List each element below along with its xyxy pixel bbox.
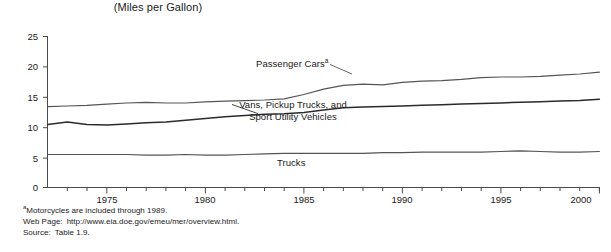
series-label-vans-line-2: Sport Utility Vehicles	[249, 111, 337, 122]
x-tick-label-2000: 2000	[563, 194, 599, 205]
y-tick-marks	[43, 37, 48, 188]
chart-figure: (Miles per Gallon)	[0, 0, 611, 252]
y-tick-label-0: 0	[16, 182, 38, 193]
x-tick-label-1995: 1995	[483, 194, 519, 205]
series-label-vans-line-1: Vans, Pickup Trucks, and	[239, 99, 347, 110]
footnotes-block: aMotorcycles are included through 1989. …	[23, 205, 239, 239]
footnote-web-page: Web Page:http://www.eia.doe.gov/emeu/mer…	[23, 216, 239, 227]
series-label-passenger-cars-footnote-marker: a	[325, 57, 329, 64]
footnote-web-page-label: Web Page:	[23, 217, 63, 226]
series-label-vans-pickups-suv: Vans, Pickup Trucks, and Sport Utility V…	[230, 99, 356, 123]
series-line-trucks	[48, 151, 600, 155]
x-major-tick-marks	[107, 188, 600, 194]
footnote-web-page-url[interactable]: http://www.eia.doe.gov/emeu/mer/overview…	[67, 217, 240, 226]
footnote-motorcycles-text: Motorcycles are included through 1989.	[26, 206, 167, 215]
series-label-passenger-cars-text: Passenger Cars	[256, 58, 325, 69]
y-tick-label-5: 5	[16, 153, 38, 164]
x-tick-label-1985: 1985	[286, 194, 322, 205]
y-tick-label-25: 25	[16, 31, 38, 42]
series-label-passenger-cars: Passenger Carsa	[256, 58, 329, 69]
x-tick-label-1980: 1980	[187, 194, 223, 205]
x-minor-tick-marks	[67, 188, 599, 192]
footnote-source-label: Source:	[23, 228, 51, 237]
footnote-source: Source:Table 1.9.	[23, 227, 239, 238]
x-tick-label-1990: 1990	[384, 194, 420, 205]
y-tick-label-10: 10	[16, 122, 38, 133]
x-tick-label-1975: 1975	[89, 194, 125, 205]
y-tick-label-15: 15	[16, 92, 38, 103]
footnote-motorcycles: aMotorcycles are included through 1989.	[23, 205, 239, 216]
footnote-source-value: Table 1.9.	[55, 228, 90, 237]
leader-line-passenger-cars	[330, 65, 352, 75]
series-label-trucks: Trucks	[277, 157, 305, 168]
y-tick-label-20: 20	[16, 61, 38, 72]
